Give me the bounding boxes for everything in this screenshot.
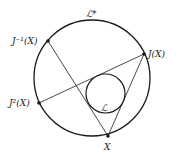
poncelet-diagram: ℒ* ℒ J⁻¹(X) J(X) J²(X) X [0, 0, 181, 155]
label-jinv: J⁻¹(X) [10, 36, 38, 46]
label-outer-circle: ℒ* [86, 9, 97, 19]
segment-x-j [108, 54, 144, 136]
label-j: J(X) [146, 49, 166, 59]
segment-j-j2 [39, 54, 144, 103]
point-x [106, 134, 110, 138]
label-x: X [103, 142, 111, 152]
label-j2: J²(X) [7, 98, 30, 108]
point-jinv [46, 39, 50, 43]
label-inner-circle: ℒ [101, 103, 108, 113]
segment-jinv-x [48, 41, 108, 136]
point-j2 [37, 101, 41, 105]
point-j [142, 52, 146, 56]
